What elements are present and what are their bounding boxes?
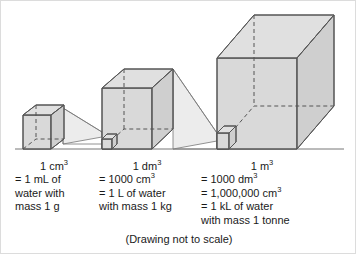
label-line-1-2: water with: [15, 187, 93, 201]
label-line-1-3: mass 1 g: [15, 200, 93, 214]
label-line-3-1: = 1000 dm3: [201, 173, 323, 187]
figure-container: .face { fill: #d9d9d9; stroke: #555555; …: [0, 0, 356, 254]
cube-cubic-centimetre: [23, 105, 64, 149]
figure-caption: (Drawing not to scale): [1, 233, 356, 245]
label-line-3-4: with mass 1 tonne: [201, 214, 323, 228]
label-line-2-2: = 1 L of water: [99, 187, 195, 201]
label-cubic-centimetre: 1 cm3 = 1 mL of water with mass 1 g: [15, 159, 93, 214]
label-line-2-1: = 1000 cm3: [99, 173, 195, 187]
label-cubic-decimetre: 1 dm3 = 1000 cm3 = 1 L of water with mas…: [99, 159, 195, 214]
tiny-cube-in-decimetre: [102, 134, 117, 149]
label-title-3: 1 m3: [201, 159, 323, 173]
label-line-2-3: with mass 1 kg: [99, 200, 195, 214]
cube-cubic-metre: [217, 15, 334, 149]
tiny-cube-in-metre: [217, 126, 236, 149]
label-title-1: 1 cm3: [15, 159, 93, 173]
magnify-cone-2: [173, 69, 217, 149]
label-line-1-1: = 1 mL of: [15, 173, 93, 187]
label-line-3-3: = 1 kL of water: [201, 200, 323, 214]
label-cubic-metre: 1 m3 = 1000 dm3 = 1,000,000 cm3 = 1 kL o…: [201, 159, 323, 227]
magnify-cone-1: [63, 108, 102, 144]
cube-cubic-decimetre: [102, 69, 173, 149]
label-line-3-2: = 1,000,000 cm3: [201, 187, 323, 201]
label-title-2: 1 dm3: [99, 159, 195, 173]
